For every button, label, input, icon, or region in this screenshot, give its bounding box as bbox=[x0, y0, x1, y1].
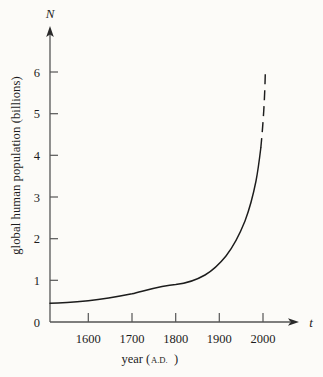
y-axis-ticks bbox=[50, 72, 58, 280]
y-tick-label-3: 3 bbox=[34, 191, 40, 205]
x-tick-label-1800: 1800 bbox=[163, 332, 188, 346]
x-axis-title: year ( A.D. ) bbox=[121, 352, 178, 366]
y-tick-label-5: 5 bbox=[34, 107, 40, 121]
y-axis-symbol: N bbox=[45, 6, 56, 21]
x-axis-ticks bbox=[88, 313, 263, 322]
y-tick-label-2: 2 bbox=[34, 232, 40, 246]
x-axis-title-paren-close: ) bbox=[174, 352, 178, 366]
x-tick-label-2000: 2000 bbox=[251, 332, 276, 346]
y-tick-label-0: 0 bbox=[34, 316, 40, 330]
figure-container: 0 1 2 3 4 5 6 1600 1700 1800 1900 2000 N… bbox=[0, 0, 323, 377]
x-axis-title-main: year bbox=[121, 352, 143, 366]
x-axis-title-paren-open: ( bbox=[146, 352, 150, 366]
x-tick-label-1600: 1600 bbox=[76, 332, 101, 346]
population-curve-projection bbox=[261, 73, 266, 148]
population-curve-historical bbox=[50, 148, 261, 303]
population-growth-chart: 0 1 2 3 4 5 6 1600 1700 1800 1900 2000 N… bbox=[0, 0, 323, 377]
x-tick-label-1700: 1700 bbox=[120, 332, 145, 346]
y-axis bbox=[46, 26, 54, 322]
x-tick-label-1900: 1900 bbox=[207, 332, 232, 346]
x-axis-title-era: A.D. bbox=[151, 355, 168, 365]
x-axis bbox=[50, 318, 299, 326]
y-tick-label-1: 1 bbox=[34, 274, 40, 288]
x-axis-symbol: t bbox=[309, 315, 313, 330]
y-tick-label-4: 4 bbox=[34, 149, 41, 163]
y-tick-label-6: 6 bbox=[34, 66, 40, 80]
